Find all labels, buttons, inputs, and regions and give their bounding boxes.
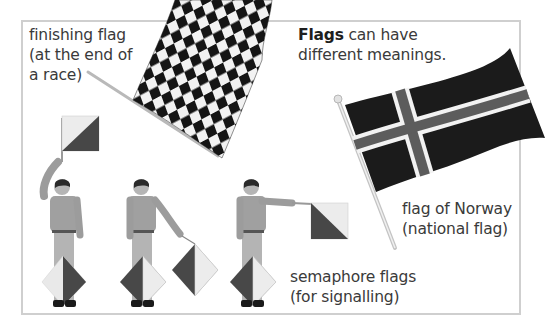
finishing-flag-caption-line1: finishing flag — [29, 25, 132, 45]
semaphore-figure-2 — [120, 179, 218, 307]
norway-flag-caption-line1: flag of Norway — [402, 199, 512, 219]
semaphore-figure-1 — [42, 116, 99, 307]
heading-line1-rest: can have — [344, 26, 418, 44]
finishing-flag-caption: finishing flag (at the end of a race) — [29, 25, 132, 85]
norway-flag-caption: flag of Norway (national flag) — [402, 199, 512, 239]
heading-bold-word: Flags — [298, 26, 344, 44]
finishing-flag-caption-line2: (at the end of — [29, 45, 132, 65]
norway-flag-caption-line2: (national flag) — [402, 219, 512, 239]
page-heading: Flags can have different meanings. — [298, 25, 446, 65]
heading-line2: different meanings. — [298, 45, 446, 65]
semaphore-flags-caption: semaphore flags (for signalling) — [290, 267, 416, 307]
semaphore-flags-caption-line2: (for signalling) — [290, 287, 416, 307]
heading-line1: Flags can have — [298, 25, 446, 45]
finishing-flag-caption-line3: a race) — [29, 65, 132, 85]
semaphore-flags-caption-line1: semaphore flags — [290, 267, 416, 287]
